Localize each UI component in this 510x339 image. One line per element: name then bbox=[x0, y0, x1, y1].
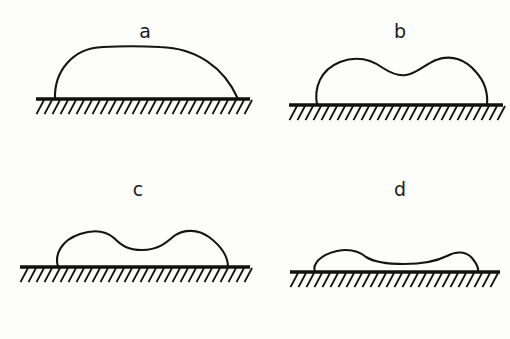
panel-label-d: d bbox=[394, 178, 406, 200]
figure-background bbox=[0, 0, 510, 339]
figure-canvas: a b c d bbox=[0, 0, 510, 339]
panel-label-a: a bbox=[139, 20, 151, 42]
panel-label-b: b bbox=[394, 20, 406, 42]
droplet-wetting-diagram: a b c d bbox=[0, 0, 510, 339]
panel-label-c: c bbox=[133, 178, 143, 200]
